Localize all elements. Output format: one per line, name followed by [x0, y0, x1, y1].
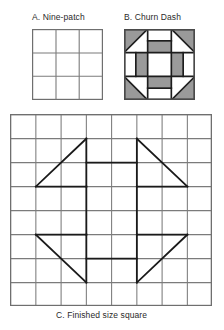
diagram-page: A. Nine-patch B. Churn Dash	[0, 0, 224, 330]
figure-churn-dash	[124, 29, 195, 100]
patch-top-dash	[148, 41, 172, 53]
figure-caption-churn-dash: B. Churn Dash	[124, 12, 181, 22]
nine-patch-svg	[32, 29, 103, 100]
figure-caption-finished-size-square: C. Finished size square	[56, 310, 147, 320]
figure-nine-patch	[32, 29, 103, 100]
patch-left-dash	[136, 53, 148, 77]
finished-square-background	[10, 114, 212, 306]
figure-finished-size-square	[10, 114, 212, 306]
churn-dash-svg	[124, 29, 195, 100]
patch-bottom-dash	[148, 76, 172, 88]
patch-right-dash	[171, 53, 183, 77]
finished-size-square-svg	[10, 114, 212, 306]
nine-patch-outer-border	[33, 30, 103, 100]
figure-caption-nine-patch: A. Nine-patch	[32, 12, 85, 22]
